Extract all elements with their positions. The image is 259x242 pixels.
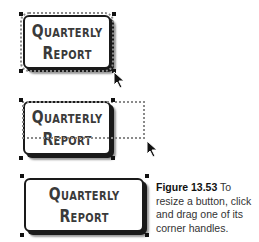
quarterly-report-button-resized[interactable]: Quarterly Report [24,178,144,232]
resize-handle-icon[interactable] [145,233,149,237]
button-label-line2: Report [59,208,108,225]
resize-handle-icon[interactable] [111,98,115,102]
resize-handle-icon[interactable] [19,12,23,16]
resize-handle-icon[interactable] [145,174,149,178]
button-label-line1: Quarterly [32,23,103,40]
resize-handle-icon[interactable] [19,69,23,73]
figure-number: Figure 13.53 [156,181,217,193]
resize-handle-icon[interactable] [19,156,23,160]
figure-caption: Figure 13.53 To resize a button, click a… [156,181,259,235]
arrow-pointer-icon [113,71,127,89]
quarterly-report-button-selected[interactable]: Quarterly Report [23,15,111,69]
button-label-line2: Report [42,45,91,62]
button-label-line1: Quarterly [49,186,120,203]
resize-handle-icon[interactable] [112,12,116,16]
resize-handle-icon[interactable] [20,233,24,237]
arrow-pointer-icon [146,140,160,158]
resize-handle-icon[interactable] [111,156,115,160]
resize-handle-icon[interactable] [19,98,23,102]
resize-handle-icon[interactable] [20,174,24,178]
resize-outline [22,101,145,139]
